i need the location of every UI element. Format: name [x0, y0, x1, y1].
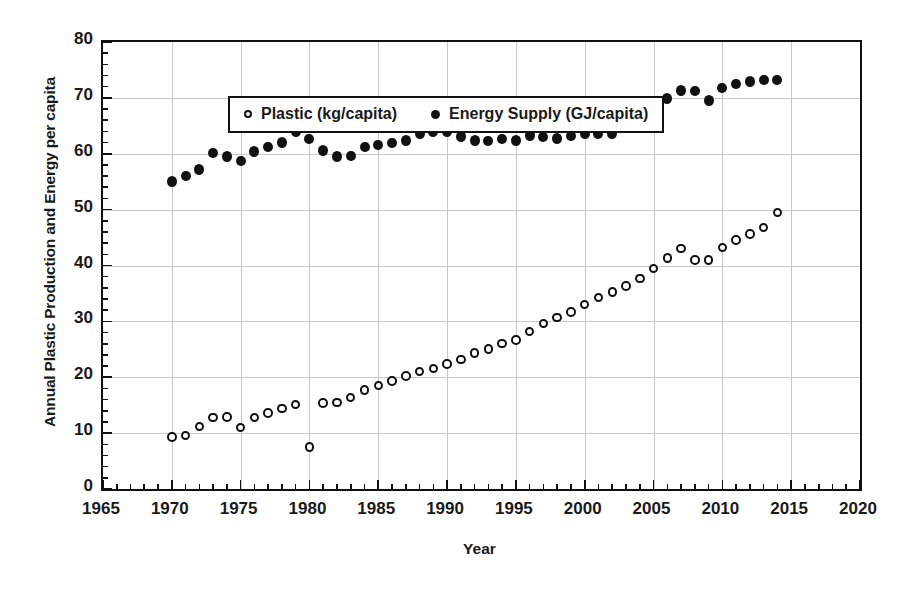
x-tick-label: 2015 — [759, 499, 819, 519]
data-point-plastic — [676, 244, 686, 254]
data-point-plastic — [663, 253, 673, 263]
y-tick-major — [103, 153, 112, 155]
data-point-energy-supply — [346, 151, 356, 162]
y-tick-minor — [103, 466, 108, 468]
x-tick-minor — [818, 484, 820, 489]
x-tick-minor — [667, 484, 669, 489]
data-point-plastic — [250, 413, 260, 423]
data-point-plastic — [222, 412, 232, 422]
x-tick-minor — [735, 484, 737, 489]
x-tick-minor — [116, 484, 118, 489]
x-tick-label: 2010 — [690, 499, 750, 519]
x-tick-major — [790, 480, 792, 489]
y-tick-minor — [103, 455, 108, 457]
data-point-energy-supply — [759, 75, 769, 86]
x-tick-minor — [832, 484, 834, 489]
y-tick-minor — [103, 119, 108, 121]
gridline-vertical — [172, 42, 173, 489]
x-tick-minor — [143, 484, 145, 489]
x-tick-minor — [350, 484, 352, 489]
x-tick-minor — [267, 484, 269, 489]
y-tick-minor — [103, 64, 108, 66]
y-tick-minor — [103, 354, 108, 356]
x-tick-major — [171, 480, 173, 489]
y-tick-minor — [103, 52, 108, 54]
y-tick-minor — [103, 287, 108, 289]
data-point-energy-supply — [318, 145, 328, 156]
x-tick-major — [584, 480, 586, 489]
data-point-plastic — [332, 398, 342, 408]
data-point-plastic — [291, 400, 301, 410]
x-tick-minor — [598, 484, 600, 489]
y-tick-minor — [103, 410, 108, 412]
x-tick-minor — [556, 484, 558, 489]
chart-legend: Plastic (kg/capita) Energy Supply (GJ/ca… — [228, 96, 664, 133]
data-point-plastic — [635, 274, 645, 284]
x-tick-minor — [708, 484, 710, 489]
data-point-plastic — [442, 359, 452, 369]
y-tick-minor — [103, 332, 108, 334]
data-point-energy-supply — [717, 83, 727, 94]
data-point-energy-supply — [360, 142, 370, 153]
data-point-energy-supply — [249, 146, 259, 157]
chart-figure: Annual Plastic Production and Energy per… — [0, 0, 906, 590]
x-tick-label: 1970 — [140, 499, 200, 519]
y-tick-minor — [103, 421, 108, 423]
x-tick-label: 1985 — [346, 499, 406, 519]
x-tick-label: 1980 — [277, 499, 337, 519]
data-point-energy-supply — [263, 142, 273, 153]
data-point-plastic — [263, 408, 273, 418]
y-tick-minor — [103, 75, 108, 77]
data-point-plastic — [236, 423, 246, 433]
data-point-energy-supply — [194, 164, 204, 175]
y-tick-minor — [103, 186, 108, 188]
x-tick-minor — [694, 484, 696, 489]
x-tick-minor — [804, 484, 806, 489]
y-tick-minor — [103, 175, 108, 177]
x-tick-minor — [185, 484, 187, 489]
x-tick-major — [722, 480, 724, 489]
data-point-plastic — [415, 367, 425, 377]
filled-circle-marker-icon — [431, 110, 440, 119]
x-tick-minor — [226, 484, 228, 489]
x-tick-major — [309, 480, 311, 489]
y-tick-major — [103, 41, 112, 43]
plot-area: Plastic (kg/capita) Energy Supply (GJ/ca… — [101, 40, 862, 491]
data-point-plastic — [484, 344, 494, 354]
gridline-vertical — [791, 42, 792, 489]
data-point-plastic — [429, 364, 439, 374]
data-point-energy-supply — [704, 95, 714, 106]
gridline-horizontal — [103, 210, 860, 211]
x-tick-minor — [212, 484, 214, 489]
data-point-energy-supply — [236, 156, 246, 167]
data-point-energy-supply — [552, 133, 562, 144]
data-point-plastic — [208, 413, 218, 423]
y-tick-minor — [103, 298, 108, 300]
x-tick-label: 2000 — [553, 499, 613, 519]
y-tick-label: 80 — [53, 29, 93, 49]
data-point-plastic — [346, 393, 356, 403]
x-tick-major — [240, 480, 242, 489]
data-point-energy-supply — [483, 136, 493, 147]
data-point-energy-supply — [373, 140, 383, 151]
x-tick-label: 1990 — [415, 499, 475, 519]
data-point-plastic — [759, 223, 769, 233]
y-tick-label: 0 — [53, 476, 93, 496]
x-tick-minor — [749, 484, 751, 489]
data-point-plastic — [580, 300, 590, 310]
open-circle-marker-icon — [244, 110, 252, 118]
data-point-energy-supply — [208, 148, 218, 159]
legend-entry-energy-supply: Energy Supply (GJ/capita) — [431, 105, 648, 123]
data-point-energy-supply — [277, 137, 287, 148]
data-point-plastic — [690, 255, 700, 265]
data-point-energy-supply — [690, 86, 700, 97]
x-tick-minor — [474, 484, 476, 489]
data-point-energy-supply — [731, 79, 741, 90]
y-tick-label: 60 — [53, 141, 93, 161]
x-tick-minor — [763, 484, 765, 489]
data-point-plastic — [704, 255, 714, 265]
data-point-plastic — [594, 293, 604, 303]
x-tick-minor — [157, 484, 159, 489]
data-point-plastic — [374, 381, 384, 391]
x-tick-minor — [336, 484, 338, 489]
